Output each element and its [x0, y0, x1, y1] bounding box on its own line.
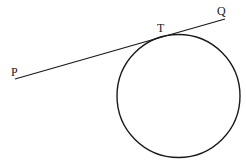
circle: [117, 35, 240, 158]
label-q: Q: [217, 4, 226, 18]
tangent-line-pq: [15, 19, 225, 79]
label-t: T: [157, 21, 165, 35]
tangent-diagram: P T Q: [0, 0, 246, 165]
label-p: P: [11, 65, 18, 79]
